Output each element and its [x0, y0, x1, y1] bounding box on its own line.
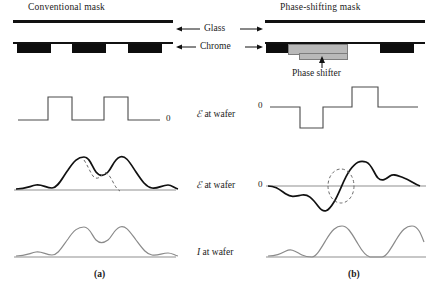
i-curve-left [16, 227, 178, 256]
caption-a: (a) [94, 270, 105, 280]
row-label-i-at-wafer: I at wafer [197, 248, 233, 258]
caption-b: (b) [348, 270, 360, 280]
row-label-i-at-wafer-text: at wafer [200, 247, 233, 257]
figure-phase-shifting-mask: Conventional mask Phase-shifting mask Gl… [0, 0, 431, 287]
i-curve-right [268, 226, 424, 257]
row-i-at-wafer-waveforms [0, 0, 431, 287]
